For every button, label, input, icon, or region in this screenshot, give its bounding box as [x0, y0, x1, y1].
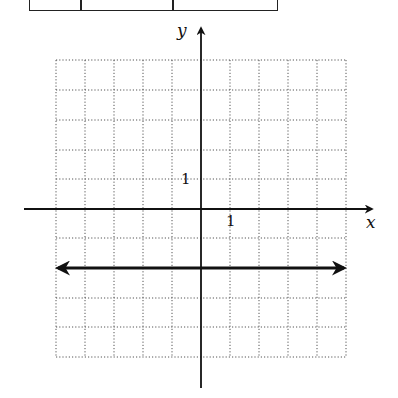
- coordinate-plane: [0, 0, 398, 398]
- x-tick-label: 1: [226, 212, 236, 230]
- x-axis-label: x: [366, 212, 376, 232]
- y-tick-label: 1: [181, 170, 191, 188]
- y-axis-label: y: [177, 20, 187, 40]
